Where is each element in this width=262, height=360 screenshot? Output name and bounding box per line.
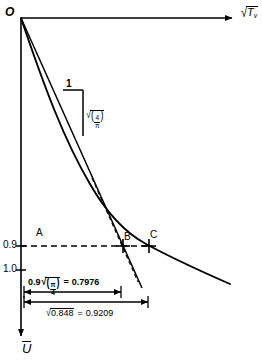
x-axis-subscript: v xyxy=(254,12,257,19)
y-axis-label-text: U xyxy=(22,341,31,355)
annotation-2-radicand: 0.848 xyxy=(50,308,75,318)
x-axis-base: T xyxy=(247,6,254,18)
annotation-1-radicand: (π4) xyxy=(45,277,60,296)
slope-radicand: (4π) xyxy=(90,110,104,129)
paren-close: ) xyxy=(56,276,59,289)
initial-slope-line xyxy=(21,18,142,288)
point-label-A: A xyxy=(36,228,43,238)
point-label-B: B xyxy=(124,232,131,242)
annotation-1-equals: = xyxy=(60,277,71,287)
slope-radical: √(4π) xyxy=(85,110,104,129)
paren-close: ) xyxy=(100,109,103,122)
slope-denominator: π xyxy=(94,122,100,129)
annotation-1-prefix: 0.9 xyxy=(28,277,41,287)
radical-symbol: √ xyxy=(46,308,51,318)
slope-line-dashed-extension xyxy=(92,178,138,282)
decay-curve xyxy=(21,18,230,284)
y-tick-label-0p9: 0.9 xyxy=(3,240,17,250)
x-axis-label: √Tv xyxy=(240,6,258,20)
y-tick-label-1p0: 1.0 xyxy=(3,264,17,274)
paren-open: ( xyxy=(46,276,49,289)
paren-open: ( xyxy=(91,109,94,122)
annotation-1: 0.9√(π4)=0.7976 xyxy=(28,277,99,296)
annotation-2-result: 0.9209 xyxy=(86,308,114,318)
annotation-1-fraction: π4 xyxy=(49,282,56,296)
diagram-vector-layer xyxy=(0,0,262,360)
annotation-2-equals: = xyxy=(74,308,85,318)
annotation-1-result: 0.7976 xyxy=(72,277,100,287)
annotation-1-radical: √(π4) xyxy=(41,277,61,296)
slope-run-label: 1 xyxy=(66,79,72,89)
x-axis-radicand: Tv xyxy=(246,6,258,20)
point-marker-C xyxy=(142,239,156,253)
radical-symbol: √ xyxy=(241,6,247,19)
figure-canvas: O √Tv U 1 √(4π) A B C 0.9 1.0 0.9√(π4)=0… xyxy=(0,0,262,360)
origin-label: O xyxy=(5,6,14,18)
annotation-2-radical: √0.848 xyxy=(45,308,74,318)
measure-bar-2 xyxy=(24,296,148,308)
x-axis-radical: √Tv xyxy=(240,6,258,20)
point-label-C: C xyxy=(150,230,157,240)
annotation-1-denominator: 4 xyxy=(50,289,56,296)
y-axis-label: U xyxy=(22,341,31,355)
slope-rise-label: √(4π) xyxy=(85,110,104,129)
annotation-2: √0.848=0.9209 xyxy=(45,308,113,318)
